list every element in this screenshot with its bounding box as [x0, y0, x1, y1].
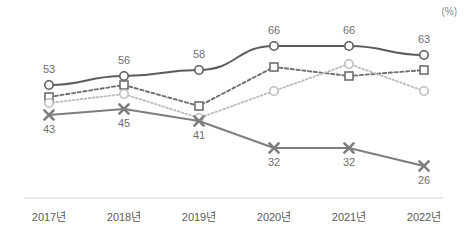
marker-circle [120, 90, 128, 98]
series-4-group [44, 104, 428, 170]
marker-circle [45, 81, 53, 89]
x-tick-label-2017년: 2017년 [32, 208, 66, 224]
marker-circle [270, 42, 278, 50]
chart-plot-area [0, 0, 467, 232]
series-1-line [49, 46, 424, 85]
marker-circle [345, 60, 353, 68]
data-point-label: 32 [268, 156, 280, 168]
x-axis-tick-labels: 2017년2018년2019년2020년2021년2022년 [0, 200, 467, 232]
data-point-label: 41 [193, 129, 205, 141]
series-2-group [45, 63, 428, 110]
marker-circle [420, 51, 428, 59]
series-layer [44, 42, 428, 171]
data-point-label: 32 [343, 156, 355, 168]
data-point-label: 63 [418, 33, 430, 45]
data-point-label: 58 [193, 48, 205, 60]
data-point-label: 56 [118, 54, 130, 66]
marker-circle [420, 87, 428, 95]
data-point-label: 43 [43, 123, 55, 135]
data-point-label: 45 [118, 117, 130, 129]
series-3-group [45, 60, 428, 122]
x-tick-label-2019년: 2019년 [182, 208, 216, 224]
series-2-line [49, 67, 424, 106]
series-1-group [45, 42, 428, 89]
marker-circle [45, 99, 53, 107]
marker-square [345, 72, 353, 80]
marker-square [195, 102, 203, 110]
marker-square [420, 66, 428, 74]
marker-circle [270, 87, 278, 95]
x-tick-label-2020년: 2020년 [257, 208, 291, 224]
data-point-label: 66 [343, 24, 355, 36]
marker-square [270, 63, 278, 71]
marker-square [120, 81, 128, 89]
marker-circle [345, 42, 353, 50]
x-tick-label-2022년: 2022년 [407, 208, 441, 224]
x-tick-label-2021년: 2021년 [332, 208, 366, 224]
data-point-label: 66 [268, 24, 280, 36]
line-chart: (%) 535658666663434541323226 2017년2018년2… [0, 0, 467, 232]
data-point-label: 53 [43, 63, 55, 75]
x-tick-label-2018년: 2018년 [107, 208, 141, 224]
marker-circle [195, 66, 203, 74]
data-point-label: 26 [418, 174, 430, 186]
series-4-line [49, 109, 424, 166]
marker-circle [120, 72, 128, 80]
